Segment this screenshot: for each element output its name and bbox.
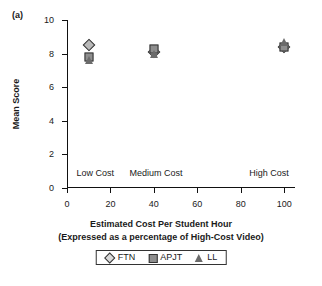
y-tick-label: 10 bbox=[44, 16, 54, 25]
x-tick: 20 bbox=[110, 188, 111, 193]
y-tick: 8 bbox=[62, 54, 67, 55]
plot-area: 0246810 020406080100 Low CostMedium Cost… bbox=[67, 20, 295, 188]
legend-label: LL bbox=[207, 253, 217, 262]
data-point-ll bbox=[85, 56, 93, 64]
x-tick-label: 80 bbox=[236, 200, 246, 209]
panel-label: (a) bbox=[12, 10, 23, 20]
x-axis-title: Estimated Cost Per Student Hour bbox=[0, 219, 322, 229]
triangle-icon bbox=[194, 253, 203, 262]
legend: FTNAPJTLL bbox=[96, 250, 227, 265]
category-label: Medium Cost bbox=[130, 168, 183, 178]
square-icon bbox=[147, 253, 156, 262]
y-tick-label: 4 bbox=[49, 116, 54, 125]
x-tick-label: 100 bbox=[277, 200, 292, 209]
x-tick-label: 60 bbox=[192, 200, 202, 209]
legend-label: APJT bbox=[160, 253, 182, 262]
y-tick-label: 6 bbox=[49, 83, 54, 92]
x-axis-line bbox=[67, 187, 295, 188]
y-tick: 4 bbox=[62, 121, 67, 122]
legend-item-ftn: FTN bbox=[105, 253, 136, 262]
y-tick: 2 bbox=[62, 154, 67, 155]
y-tick: 6 bbox=[62, 87, 67, 88]
y-tick: 10 bbox=[62, 20, 67, 21]
x-tick: 100 bbox=[284, 188, 285, 193]
legend-item-apjt: APJT bbox=[147, 253, 182, 262]
data-point-ll bbox=[280, 38, 288, 46]
x-tick: 60 bbox=[197, 188, 198, 193]
x-tick-label: 0 bbox=[64, 200, 69, 209]
legend-item-ll: LL bbox=[194, 253, 217, 262]
legend-label: FTN bbox=[118, 253, 136, 262]
x-axis-subtitle: (Expressed as a percentage of High-Cost … bbox=[0, 232, 322, 242]
y-axis-title: Mean Score bbox=[11, 79, 21, 130]
data-point-ftn bbox=[82, 39, 95, 52]
category-label: Low Cost bbox=[76, 168, 114, 178]
y-tick-label: 0 bbox=[49, 184, 54, 193]
x-tick: 80 bbox=[241, 188, 242, 193]
x-tick-label: 20 bbox=[105, 200, 115, 209]
y-tick-label: 2 bbox=[49, 150, 54, 159]
x-tick: 0 bbox=[67, 188, 68, 193]
x-tick-label: 40 bbox=[149, 200, 159, 209]
data-point-ll bbox=[150, 50, 158, 58]
y-axis-line bbox=[67, 20, 68, 188]
y-tick-label: 8 bbox=[49, 49, 54, 58]
diamond-icon bbox=[105, 253, 114, 262]
figure-panel-a: (a) Mean Score 0246810 020406080100 Low … bbox=[0, 0, 322, 286]
category-label: High Cost bbox=[249, 168, 289, 178]
x-tick: 40 bbox=[154, 188, 155, 193]
